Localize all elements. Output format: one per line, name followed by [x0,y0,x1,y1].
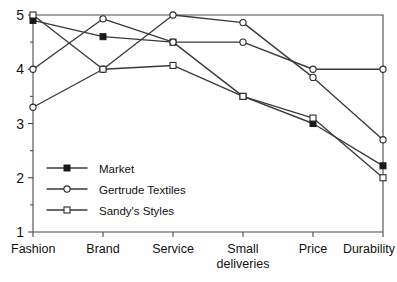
plot-frame [33,15,383,232]
series-line-sandy-s-styles [33,15,383,178]
page-bleed-artifact [0,0,397,5]
chart-canvas: 12345FashionBrandServiceSmalldeliveriesP… [0,0,397,282]
data-point-sandy-s-styles [30,12,36,18]
y-axis-tick-label: 5 [16,7,24,23]
line-chart: 12345FashionBrandServiceSmalldeliveriesP… [0,0,397,282]
data-point-gertrude-textiles [170,39,176,45]
y-axis-tick-label: 2 [16,170,24,186]
data-point-gertrude-textiles [240,39,246,45]
data-point-sandy-s-styles [100,66,106,72]
data-point-gertrude-textiles [310,74,316,80]
legend-label: Market [99,163,135,175]
legend-label: Sandy's Styles [99,205,174,217]
data-point-sandy-s-styles [310,115,316,121]
y-axis-tick-label: 3 [16,116,24,132]
data-point-gertrude-textiles [310,66,316,72]
legend-label: Gertrude Textiles [99,184,186,196]
x-axis-category-label: deliveries [217,257,270,271]
legend-swatch-marker [64,207,70,213]
legend-swatch-marker [64,186,70,192]
x-axis-category-label: Small [227,242,258,256]
x-axis-category-label: Fashion [11,242,56,256]
data-point-gertrude-textiles [380,66,386,72]
data-point-sandy-s-styles [240,93,246,99]
y-axis-tick-label: 1 [16,224,24,240]
series-line-gertrude-textiles [33,19,383,69]
data-point-gertrude-textiles [240,19,246,25]
data-point-gertrude-textiles [170,12,176,18]
x-axis-category-label: Durability [343,242,396,256]
x-axis-category-label: Brand [86,242,119,256]
data-point-market [100,34,106,40]
data-point-gertrude-textiles [30,104,36,110]
data-point-gertrude-textiles [100,16,106,22]
x-axis-category-label: Service [152,242,194,256]
x-axis-category-label: Price [299,242,328,256]
y-axis-tick-label: 4 [16,61,24,77]
data-point-sandy-s-styles [380,175,386,181]
data-point-sandy-s-styles [170,62,176,68]
data-point-gertrude-textiles [30,66,36,72]
series-line-gertrude-textiles [33,15,383,140]
legend-swatch-marker [64,165,70,171]
data-point-gertrude-textiles [380,137,386,143]
data-point-market [380,163,386,169]
